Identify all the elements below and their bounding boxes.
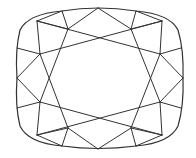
facet-line — [131, 11, 136, 29]
facet-line — [62, 11, 68, 29]
facet-line — [17, 48, 40, 54]
facet-line — [17, 102, 40, 108]
facet-line — [37, 128, 68, 135]
facet-line — [98, 128, 131, 149]
facet-lines — [17, 8, 183, 149]
facet-line — [37, 102, 40, 135]
facet-line — [160, 54, 183, 78]
facet-line — [37, 21, 40, 54]
facet-line — [160, 102, 181, 108]
facet-line — [62, 128, 68, 146]
facet-line — [68, 8, 98, 29]
facet-line — [160, 102, 162, 135]
facet-line — [17, 54, 40, 78]
facet-line — [160, 48, 181, 54]
facet-line — [160, 21, 162, 54]
facet-line — [131, 128, 162, 135]
facet-line — [68, 128, 98, 149]
gem-outline — [16, 8, 183, 149]
facet-line — [17, 78, 40, 102]
facet-line — [40, 21, 162, 54]
gem-facet-diagram — [0, 0, 196, 158]
facet-line — [131, 128, 136, 146]
facet-line — [160, 78, 183, 102]
facet-line — [98, 8, 131, 29]
